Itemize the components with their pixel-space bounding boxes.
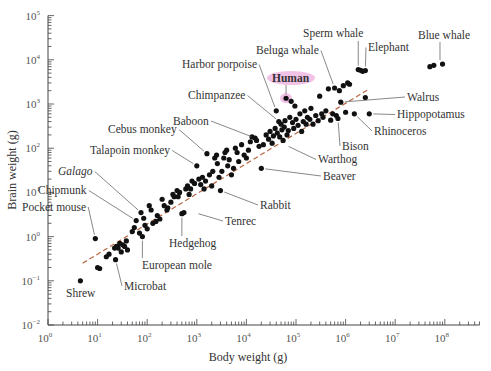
data-point (310, 122, 315, 127)
data-point (203, 179, 208, 184)
x-tick-label: 105 (286, 331, 301, 344)
data-point (187, 192, 192, 197)
data-point (363, 95, 368, 100)
data-point (291, 126, 296, 131)
point-label-walrus: Walrus (407, 91, 440, 103)
data-point (219, 169, 224, 174)
data-point (254, 138, 259, 143)
data-point (332, 85, 337, 90)
data-point (215, 161, 220, 166)
leader-line (95, 172, 138, 210)
data-point (201, 186, 206, 191)
y-tick-label: 100 (26, 230, 41, 243)
data-point (141, 216, 146, 221)
data-point (248, 139, 253, 144)
data-point (216, 175, 221, 180)
y-tick-label: 10−1 (22, 274, 41, 287)
data-point (297, 111, 302, 116)
x-tick-label: 101 (87, 331, 102, 344)
data-point (307, 117, 312, 122)
data-point (352, 111, 357, 116)
y-axis-title: Brain weight (g) (5, 130, 19, 209)
point-label-galago: Galago (58, 165, 93, 178)
data-point (287, 115, 292, 120)
data-point (266, 137, 271, 142)
x-axis-title: Body weight (g) (209, 350, 288, 364)
data-point (267, 129, 272, 134)
data-point (224, 148, 229, 153)
x-tick-label: 103 (187, 331, 202, 344)
data-point (210, 169, 215, 174)
data-point (119, 249, 124, 254)
data-points (78, 61, 445, 283)
data-point (367, 111, 372, 116)
data-point (313, 113, 318, 118)
data-point (235, 150, 240, 155)
data-point (259, 166, 264, 171)
data-point (316, 118, 321, 123)
data-point (209, 183, 214, 188)
data-point (97, 266, 102, 271)
data-point (283, 96, 288, 101)
data-point (270, 141, 275, 146)
data-point (244, 155, 249, 160)
data-point (138, 210, 143, 215)
data-point (326, 86, 331, 91)
x-tick-label: 108 (435, 331, 450, 344)
data-point (140, 234, 145, 239)
data-point (145, 226, 150, 231)
y-tick-label: 104 (26, 53, 41, 66)
leader-line (365, 48, 366, 67)
point-label-baboon: Baboon (173, 115, 209, 127)
point-label-chipmunk: Chipmunk (38, 184, 87, 197)
data-point (227, 157, 232, 162)
data-point (225, 163, 230, 168)
data-point (165, 205, 170, 210)
point-label-cebus-monkey: Cebus monkey (108, 123, 177, 136)
data-point (281, 138, 286, 143)
data-point (292, 103, 297, 108)
data-point (341, 83, 346, 88)
point-label-rhinoceros: Rhinoceros (374, 125, 427, 137)
leader-line (345, 97, 405, 102)
data-point (282, 125, 287, 130)
data-point (286, 128, 291, 133)
leader-line (172, 151, 193, 164)
data-point (343, 110, 348, 115)
data-point (338, 100, 343, 105)
data-point (132, 225, 137, 230)
data-point (218, 188, 223, 193)
data-point (317, 94, 322, 99)
data-point (328, 118, 333, 123)
data-point (78, 278, 83, 283)
data-point (177, 190, 182, 195)
point-label-bison: Bison (342, 140, 369, 152)
leader-line (89, 191, 133, 219)
point-label-rabbit: Rabbit (260, 199, 291, 211)
data-point (134, 218, 139, 223)
point-label-hedgehog: Hedgehog (169, 237, 217, 250)
data-point (440, 61, 445, 66)
data-point (337, 88, 342, 93)
leader-line (211, 121, 251, 137)
point-label-chimpanzee: Chimpanzee (188, 89, 245, 102)
leader-line (116, 264, 122, 286)
point-label-european-mole: European mole (142, 259, 212, 272)
data-point (308, 106, 313, 111)
data-point (274, 108, 279, 113)
x-tick-label: 102 (137, 331, 152, 344)
data-point (261, 142, 266, 147)
point-label-pocket-mouse: Pocket mouse (22, 201, 86, 213)
data-point (124, 238, 129, 243)
x-tick-label: 106 (335, 331, 350, 344)
data-point (194, 163, 199, 168)
data-point (221, 155, 226, 160)
point-label-human: Human (272, 72, 310, 84)
data-point (204, 151, 209, 156)
data-point (214, 152, 219, 157)
point-label-warthog: Warthog (318, 153, 358, 166)
data-point (320, 115, 325, 120)
data-point (363, 68, 368, 73)
point-label-microbat: Microbat (124, 280, 167, 292)
point-label-beluga-whale: Beluga whale (256, 44, 319, 57)
